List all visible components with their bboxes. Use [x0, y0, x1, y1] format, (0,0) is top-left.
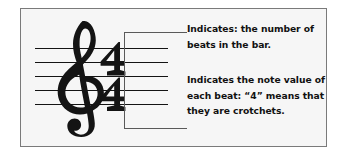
figure-canvas: Indicates: the number of beats in the ba… [0, 0, 341, 154]
annotation-line: Indicates the note value of [187, 72, 321, 88]
leader-line-bottom [124, 128, 187, 129]
time-signature-bottom-number [101, 77, 126, 111]
annotation-line: Indicates: the number of [187, 21, 321, 37]
time-signature-4-4 [99, 41, 133, 113]
leader-line-vertical [124, 32, 125, 129]
time-signature-top-number [101, 42, 126, 76]
annotation-line: they are crotchets. [187, 103, 321, 119]
annotation-bottom-number: Indicates the note value of each beat: “… [187, 72, 321, 119]
annotation-line: each beat: “4” means that [187, 88, 321, 104]
annotation-line: beats in the bar. [187, 37, 321, 53]
annotation-top-number: Indicates: the number of beats in the ba… [187, 21, 321, 52]
diagram-panel: Indicates: the number of beats in the ba… [20, 8, 327, 147]
leader-line-top [124, 32, 187, 33]
